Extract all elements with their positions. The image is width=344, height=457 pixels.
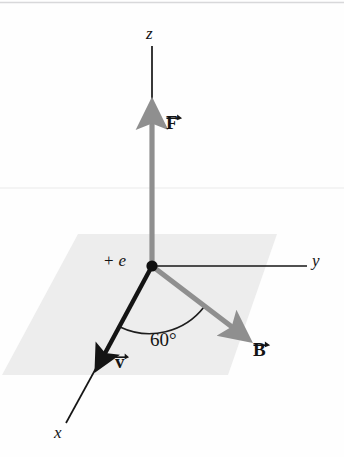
diagram-canvas: [0, 0, 344, 457]
vector-label-F: F: [166, 113, 178, 132]
vector-label-v: v: [115, 352, 125, 371]
charge-label: +e: [104, 252, 126, 269]
axis-label-x: x: [54, 424, 62, 441]
origin-charge-dot: [146, 260, 157, 271]
xy-plane-shading: [2, 234, 277, 375]
vector-letter-B: B: [253, 339, 266, 360]
charge-plus-sign: +: [104, 251, 114, 270]
vector-letter-v: v: [115, 351, 125, 372]
axis-label-z: z: [146, 25, 153, 42]
charge-symbol: e: [119, 251, 127, 270]
axis-label-y: y: [312, 252, 320, 269]
angle-label-60: 60°: [150, 330, 177, 349]
vector-label-B: B: [253, 340, 266, 359]
vector-letter-F: F: [166, 112, 178, 133]
physics-vector-diagram: z y x +e F B v: [0, 0, 344, 457]
